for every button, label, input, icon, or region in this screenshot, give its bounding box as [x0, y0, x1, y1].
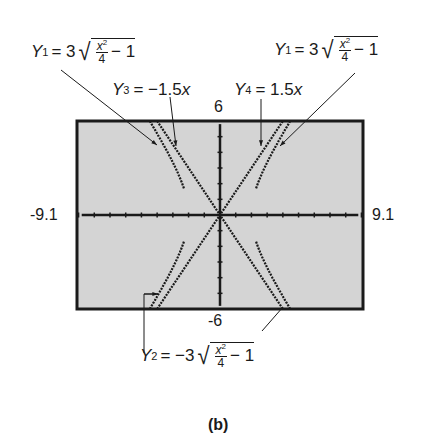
sqrt-icon: √: [79, 37, 91, 66]
label-y2: Y2 = −3 √ x24 − 1: [140, 342, 254, 369]
label-y4: Y4 = 1.5x: [234, 80, 302, 100]
figure-caption: (b): [208, 416, 228, 434]
sqrt-icon: √: [198, 341, 210, 370]
label-y1-left: Y1 = 3 √ x24 − 1: [31, 38, 135, 65]
ymax-label: 6: [214, 99, 223, 115]
label-y1-right: Y1 = 3 √ x24 − 1: [274, 36, 378, 63]
xmax-label: 9.1: [372, 207, 394, 223]
sqrt-icon: √: [322, 35, 334, 64]
xmin-label: -9.1: [30, 207, 58, 223]
graph-svg: [0, 0, 426, 444]
ymin-label: -6: [208, 313, 222, 329]
label-y3: Y3 = −1.5x: [112, 80, 190, 100]
